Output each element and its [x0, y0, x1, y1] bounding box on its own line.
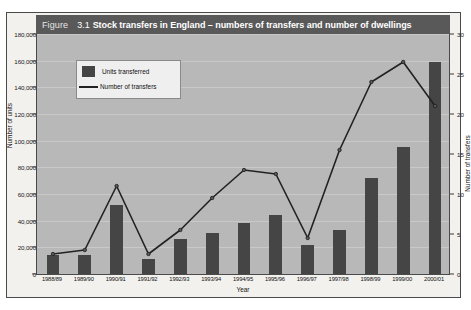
y-axis-left-tick-mark — [32, 140, 36, 141]
y-axis-right-tick-mark — [450, 74, 454, 75]
y-axis-right-title: Number of transfers — [464, 129, 471, 199]
x-axis-tick-1996-97: 1996/97 — [297, 276, 317, 282]
figure-number: 3.1 — [77, 20, 90, 30]
x-axis-tick-1991-92: 1991/92 — [138, 276, 158, 282]
legend-bar-swatch-icon — [82, 66, 95, 77]
line-marker-1989-90 — [83, 248, 86, 251]
line-marker-1995-96 — [274, 172, 277, 175]
x-axis-tick-1998-99: 1998/99 — [360, 276, 380, 282]
y-axis-right-tick-label: 0 — [457, 271, 460, 278]
x-axis-tick-1990-91: 1990/91 — [106, 276, 126, 282]
y-axis-right-tick-label: 25 — [457, 71, 464, 78]
line-marker-1997-98 — [338, 148, 341, 151]
legend-item-number-of-transfers: Number of transfers — [82, 83, 156, 90]
x-axis-title: Year — [36, 286, 450, 293]
x-axis-tick-2000-01: 2000/01 — [424, 276, 444, 282]
y-axis-right-tick-mark — [450, 274, 454, 275]
x-axis-tick-1988-89: 1988/89 — [42, 276, 62, 282]
x-axis-tick-1999-00: 1999/00 — [392, 276, 412, 282]
y-axis-right-tick-label: 5 — [457, 231, 460, 238]
legend-label-units-transferred: Units transferred — [102, 68, 149, 75]
figure-title-bar: Figure 3.1 Stock transfers in England – … — [36, 15, 450, 34]
x-axis-tick-1989-90: 1989/90 — [74, 276, 94, 282]
x-axis-tick-1992-93: 1992/93 — [169, 276, 189, 282]
figure-label: Figure — [42, 20, 68, 30]
legend-label-number-of-transfers: Number of transfers — [100, 83, 156, 90]
line-marker-1998-99 — [370, 80, 373, 83]
y-axis-right-tick-label: 30 — [457, 31, 464, 38]
y-axis-left-tick-mark — [32, 34, 36, 35]
x-axis-tick-1994-95: 1994/95 — [233, 276, 253, 282]
y-axis-left-tick-mark — [32, 167, 36, 168]
line-marker-1992-93 — [179, 228, 182, 231]
legend-item-units-transferred: Units transferred — [82, 66, 149, 77]
y-axis-left-tick-mark — [32, 114, 36, 115]
y-axis-right-tick-mark — [450, 34, 454, 35]
y-axis-right-tick-mark — [450, 234, 454, 235]
y-axis-left-tick-mark — [32, 60, 36, 61]
y-axis-left-tick-mark — [32, 274, 36, 275]
line-marker-1994-95 — [242, 168, 245, 171]
y-axis-right-tick-label: 20 — [457, 111, 464, 118]
y-axis-left-tick-mark — [32, 194, 36, 195]
legend-line-swatch-icon — [79, 86, 98, 88]
line-marker-1999-00 — [402, 60, 405, 63]
line-marker-2000-01 — [433, 104, 436, 107]
page-title: Stock transfers in England – numbers of … — [93, 20, 412, 30]
chart-legend: Units transferred Number of transfers — [76, 60, 181, 99]
y-axis-left-tick-mark — [32, 220, 36, 221]
y-axis-left-tick-mark — [32, 87, 36, 88]
x-axis-tick-1997-98: 1997/98 — [329, 276, 349, 282]
y-axis-left-title: Number of units — [6, 96, 13, 156]
x-axis-tick-1995-96: 1995/96 — [265, 276, 285, 282]
line-marker-1988-89 — [51, 252, 54, 255]
y-axis-right-tick-mark — [450, 154, 454, 155]
y-axis-left-tick-mark — [32, 247, 36, 248]
y-axis-right-tick-mark — [450, 114, 454, 115]
line-marker-1993-94 — [210, 196, 213, 199]
line-marker-1996-97 — [306, 236, 309, 239]
x-axis-tick-1993-94: 1993/94 — [201, 276, 221, 282]
line-marker-1990-91 — [115, 184, 118, 187]
line-marker-1991-92 — [147, 252, 150, 255]
y-axis-right-tick-mark — [450, 194, 454, 195]
